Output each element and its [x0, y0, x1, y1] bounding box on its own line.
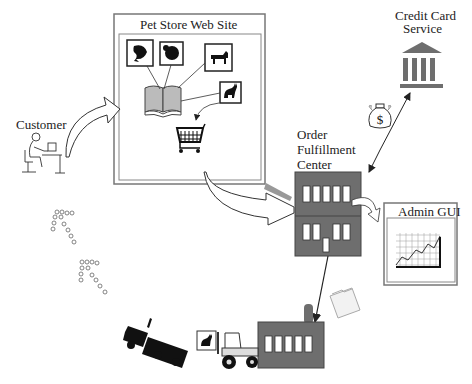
credit-card-label-line2: Service — [403, 22, 442, 36]
fulfillment-label-line3: Center — [297, 158, 332, 172]
fulfillment-to-warehouse-arrow — [315, 256, 328, 322]
office-building-icon — [295, 172, 361, 256]
truck-icon — [123, 318, 188, 368]
bird-icon — [160, 42, 183, 65]
forklift-icon — [197, 331, 258, 369]
money-bag-icon: $ — [369, 104, 391, 128]
cat-icon — [220, 82, 241, 103]
credit-to-fulfillment-arrow — [369, 150, 380, 172]
customer-to-site-arrow — [66, 97, 120, 157]
footprints-icon — [51, 210, 107, 294]
dog-icon — [205, 44, 232, 71]
diagram-canvas: $ — [0, 0, 472, 384]
customer-computer-icon — [22, 133, 65, 173]
fulfillment-label-line2: Fulfillment — [297, 143, 356, 157]
catalog-book-icon — [145, 86, 181, 117]
warehouse-icon — [258, 304, 324, 368]
bank-icon — [400, 42, 443, 88]
admin-gui-title: Admin GUI — [398, 205, 460, 219]
folder-icon — [330, 288, 360, 318]
fish-icon — [127, 40, 153, 66]
svg-text:$: $ — [377, 112, 384, 127]
website-title: Pet Store Web Site — [140, 18, 237, 32]
fulfillment-label-line1: Order — [297, 128, 327, 142]
customer-label: Customer — [16, 118, 67, 132]
